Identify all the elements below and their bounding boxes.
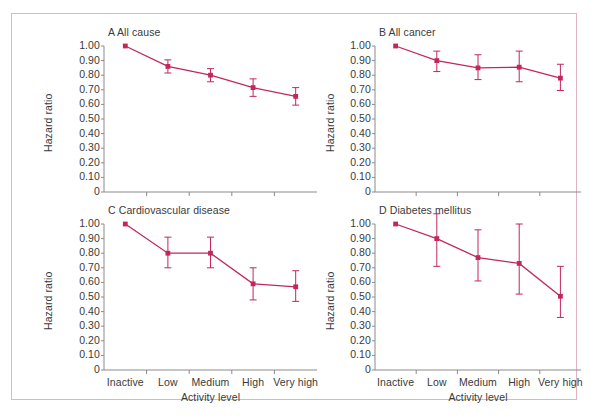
y-tick-label: 0.40 [58,127,100,139]
figure-frame: A All causeHazard ratio1.000.900.800.700… [11,13,577,400]
chart-panel-c: C Cardiovascular diseaseHazard ratio1.00… [40,204,331,410]
y-tick-label: 0.10 [329,348,371,360]
y-tick-label: 0.30 [58,319,100,331]
chart-panel-b: B All cancerHazard ratio1.000.900.800.70… [322,26,591,210]
y-tick-label: 0.40 [329,127,371,139]
panel-title-a: A All cause [108,26,160,38]
y-tick-label: 0.60 [58,97,100,109]
data-point-marker [251,85,256,90]
x-axis-label-d: Activity level [375,391,581,403]
plot-area-d [375,224,589,378]
data-point-marker [434,58,439,63]
y-tick-label: 1.00 [58,39,100,51]
data-point-marker [123,222,128,227]
y-tick-label: 1.00 [329,39,371,51]
y-tick-label: 0.10 [58,170,100,182]
error-bar [557,266,564,317]
y-tick-label: 0.50 [329,290,371,302]
chart-panel-d: D Diabetes mellitusHazard ratio1.000.900… [322,204,591,410]
y-tick-label: 0.90 [58,54,100,66]
y-tick-label: 0.40 [58,305,100,317]
y-tick-label: 0.10 [329,170,371,182]
axis-lines [104,46,317,192]
y-tick-label: 0.40 [329,305,371,317]
y-tick-label: 0 [58,185,100,197]
y-tick-label: 0.60 [58,275,100,287]
y-tick-label: 0.30 [329,319,371,331]
data-point-marker [208,251,213,256]
data-point-marker [293,94,298,99]
y-tick-label: 0 [58,363,100,375]
y-tick-label: 0.80 [329,246,371,258]
data-point-marker [251,281,256,286]
plot-area-c [104,224,325,378]
y-tick-label: 0.90 [58,232,100,244]
y-axis-label-c: Hazard ratio [42,272,54,330]
y-tick-label: 0.50 [329,112,371,124]
data-point-marker [558,294,563,299]
y-tick-label: 0.50 [58,290,100,302]
x-axis-label-c: Activity level [104,391,317,403]
data-point-marker [393,44,398,49]
data-point-marker [517,65,522,70]
y-tick-label: 0.70 [58,261,100,273]
y-tick-label: 0 [329,363,371,375]
y-tick-label: 0.70 [329,83,371,95]
plot-area-b [375,46,589,200]
data-point-marker [434,236,439,241]
y-tick-label: 0.30 [329,141,371,153]
y-tick-label: 0.90 [329,54,371,66]
data-point-marker [517,261,522,266]
panel-title-b: B All cancer [379,26,436,38]
error-bar [516,224,523,294]
y-axis-label-a: Hazard ratio [42,94,54,152]
y-tick-label: 0.90 [329,232,371,244]
data-point-marker [208,73,213,78]
data-point-marker [166,251,171,256]
panel-title-d: D Diabetes mellitus [379,204,471,216]
y-tick-label: 0.50 [58,112,100,124]
chart-panel-a: A All causeHazard ratio1.000.900.800.700… [40,26,331,210]
data-point-marker [393,222,398,227]
y-tick-label: 0.80 [329,68,371,80]
data-point-marker [166,64,171,69]
y-tick-label: 0.20 [329,334,371,346]
y-tick-label: 0.60 [329,97,371,109]
data-point-marker [123,44,128,49]
panel-title-c: C Cardiovascular disease [108,204,230,216]
y-tick-label: 0.20 [58,156,100,168]
x-tick-label: Very high [261,376,331,388]
y-tick-label: 0.10 [58,348,100,360]
y-tick-label: 1.00 [58,217,100,229]
data-point-marker [558,76,563,81]
y-tick-label: 0.20 [329,156,371,168]
y-tick-label: 0.20 [58,334,100,346]
y-tick-label: 0 [329,185,371,197]
y-tick-label: 0.80 [58,246,100,258]
data-point-marker [293,284,298,289]
data-point-marker [476,255,481,260]
y-tick-label: 0.70 [329,261,371,273]
y-tick-label: 1.00 [329,217,371,229]
y-tick-label: 0.60 [329,275,371,287]
x-tick-label: Very high [525,376,591,388]
y-tick-label: 0.80 [58,68,100,80]
data-point-marker [476,66,481,71]
plot-area-a [104,46,325,200]
y-tick-label: 0.30 [58,141,100,153]
y-tick-label: 0.70 [58,83,100,95]
